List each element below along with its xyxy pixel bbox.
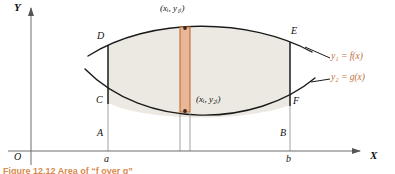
vertex-label-A: A: [97, 128, 103, 138]
lower-strip-point-dot: [183, 109, 187, 113]
figure-caption: Figure 12.12 Area of “f over g”: [3, 166, 133, 174]
upper-strip-point-label: (xᵢ, y₁ᵢ): [160, 4, 184, 13]
y-axis-label: Y: [14, 2, 21, 13]
vertex-label-E: E: [291, 26, 297, 36]
representative-strip: [180, 27, 190, 112]
upper-strip-point-dot: [183, 26, 187, 30]
upper-curve-label: y₁ = f(x): [331, 52, 363, 62]
vertex-label-D: D: [97, 31, 104, 41]
vertex-label-B: B: [280, 128, 286, 138]
vertex-label-F: F: [293, 96, 299, 106]
x-axis-label: X: [370, 150, 377, 161]
vertex-label-C: C: [96, 95, 103, 105]
lower-curve-label: y₂ = g(x): [331, 73, 365, 83]
leader-upper-label: [305, 47, 330, 58]
figure-area-between-curves: Y X O a b D E C F A B (xᵢ, y₁ᵢ) (xᵢ, y₂ᵢ…: [0, 0, 395, 174]
region-between-curves: [108, 28, 290, 118]
origin-label: O: [14, 152, 21, 162]
x-tick-label-b: b: [286, 154, 291, 164]
diagram-canvas: [0, 0, 395, 174]
x-tick-label-a: a: [104, 154, 109, 164]
lower-strip-point-label: (xᵢ, y₂ᵢ): [196, 95, 220, 104]
